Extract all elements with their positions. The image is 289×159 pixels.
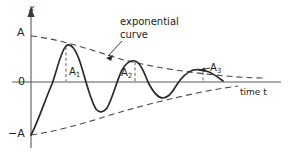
y-axis-label: x (29, 4, 34, 13)
peak1-amplitude-label: A1 (69, 67, 80, 78)
peak2-amplitude-label: A2 (121, 68, 132, 79)
upper-exponential-envelope (31, 36, 266, 78)
peak3-amplitude-label: A3 (210, 63, 221, 74)
exponential-curve-leader-line (108, 41, 122, 56)
peak1-amplitude-subscript: 1 (76, 70, 81, 79)
exponential-curve-label-line1: exponential (120, 17, 179, 27)
amplitude-tick-group (66, 47, 203, 81)
amplitude-negative-label: −A (8, 128, 25, 139)
peak1-amplitude-base: A (69, 66, 76, 77)
x-axis-label: time t (240, 88, 267, 97)
amplitude-positive-label: A (17, 27, 25, 38)
peak2-amplitude-base: A (121, 67, 128, 78)
envelope-group (31, 36, 266, 135)
damped-oscillation-figure: x A 0 −A A1 A2 A3 exponential curve time… (0, 0, 289, 159)
peak3-amplitude-subscript: 3 (217, 66, 222, 75)
damped-oscillation-curve (31, 45, 223, 135)
peak3-amplitude-base: A (210, 62, 217, 73)
oscillation-curve-group (31, 45, 223, 135)
lower-exponential-envelope (31, 86, 238, 135)
origin-label: 0 (18, 76, 25, 87)
exponential-curve-label-line2: curve (120, 30, 148, 40)
peak2-amplitude-subscript: 2 (128, 71, 133, 80)
